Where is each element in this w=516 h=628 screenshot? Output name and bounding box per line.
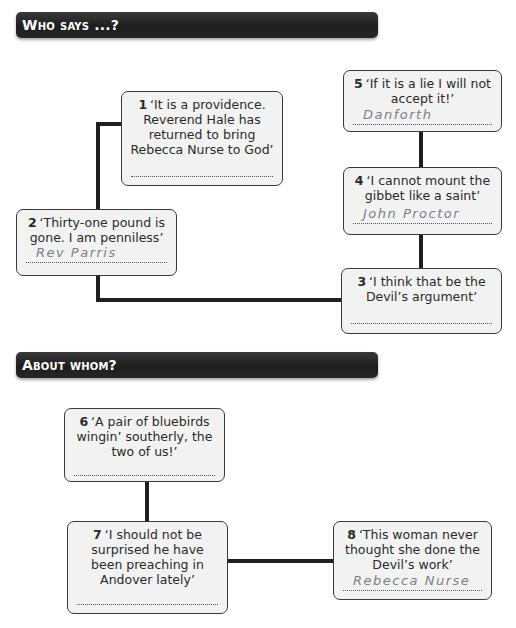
quote-number: 7 — [93, 527, 102, 542]
quote-box-5: 5‘If it is a lie I will not accept it!’ … — [343, 70, 502, 132]
answer-field-6[interactable] — [74, 457, 215, 476]
quote-number: 8 — [347, 527, 356, 542]
quote-box-2: 2‘Thirty-one pound is gone. I am pennile… — [16, 209, 177, 276]
connector-line — [419, 132, 423, 168]
connector-line — [228, 559, 334, 563]
quote-text: ‘I cannot mount the gibbet like a saint’ — [365, 173, 490, 203]
quote-box-4: 4‘I cannot mount the gibbet like a saint… — [343, 167, 502, 235]
quote-box-6: 6‘A pair of bluebirds wingin’ southerly,… — [64, 408, 225, 482]
quote-box-7: 7‘I should not be surprised he have been… — [67, 521, 228, 614]
connector-line — [96, 298, 342, 302]
answer-field-1[interactable] — [131, 158, 273, 177]
quote-text: ‘A pair of bluebirds wingin’ southerly, … — [77, 414, 213, 459]
quote-box-3: 3‘I think that be the Devil’s argument’ — [341, 268, 502, 334]
answer-field-5[interactable]: Danforth — [353, 106, 492, 125]
quote-text: ‘I should not be surprised he have been … — [91, 527, 204, 587]
quote-box-8: 8‘This woman never thought she done the … — [333, 521, 492, 600]
quote-box-1: 1‘It is a providence. Reverend Hale has … — [121, 91, 283, 186]
quote-text: ‘I think that be the Devil’s argument’ — [366, 274, 486, 304]
section-title: Who says ...? — [22, 17, 119, 33]
quote-number: 3 — [357, 274, 366, 289]
quote-number: 2 — [28, 215, 37, 230]
quote-number: 4 — [355, 173, 364, 188]
answer-field-8[interactable]: Rebecca Nurse — [343, 572, 482, 591]
quote-number: 6 — [79, 414, 88, 429]
quote-number: 5 — [354, 76, 363, 91]
section-title: About whom? — [22, 357, 117, 373]
connector-line — [96, 122, 100, 210]
quote-text: ‘Thirty-one pound is gone. I am penniles… — [30, 215, 165, 245]
quote-text: ‘This woman never thought she done the D… — [345, 527, 480, 572]
connector-line — [145, 482, 149, 522]
section-header-who-says: Who says ...? — [16, 12, 378, 38]
answer-field-3[interactable] — [351, 305, 492, 324]
connector-line — [419, 235, 423, 269]
section-header-about-whom: About whom? — [16, 352, 378, 378]
answer-field-2[interactable]: Rev Parris — [26, 244, 167, 263]
answer-field-7[interactable] — [77, 586, 218, 605]
quote-number: 1 — [138, 97, 147, 112]
answer-field-4[interactable]: John Proctor — [353, 205, 492, 224]
quote-text: ‘It is a providence. Reverend Hale has r… — [130, 97, 273, 157]
quote-text: ‘If it is a lie I will not accept it!’ — [366, 76, 491, 106]
